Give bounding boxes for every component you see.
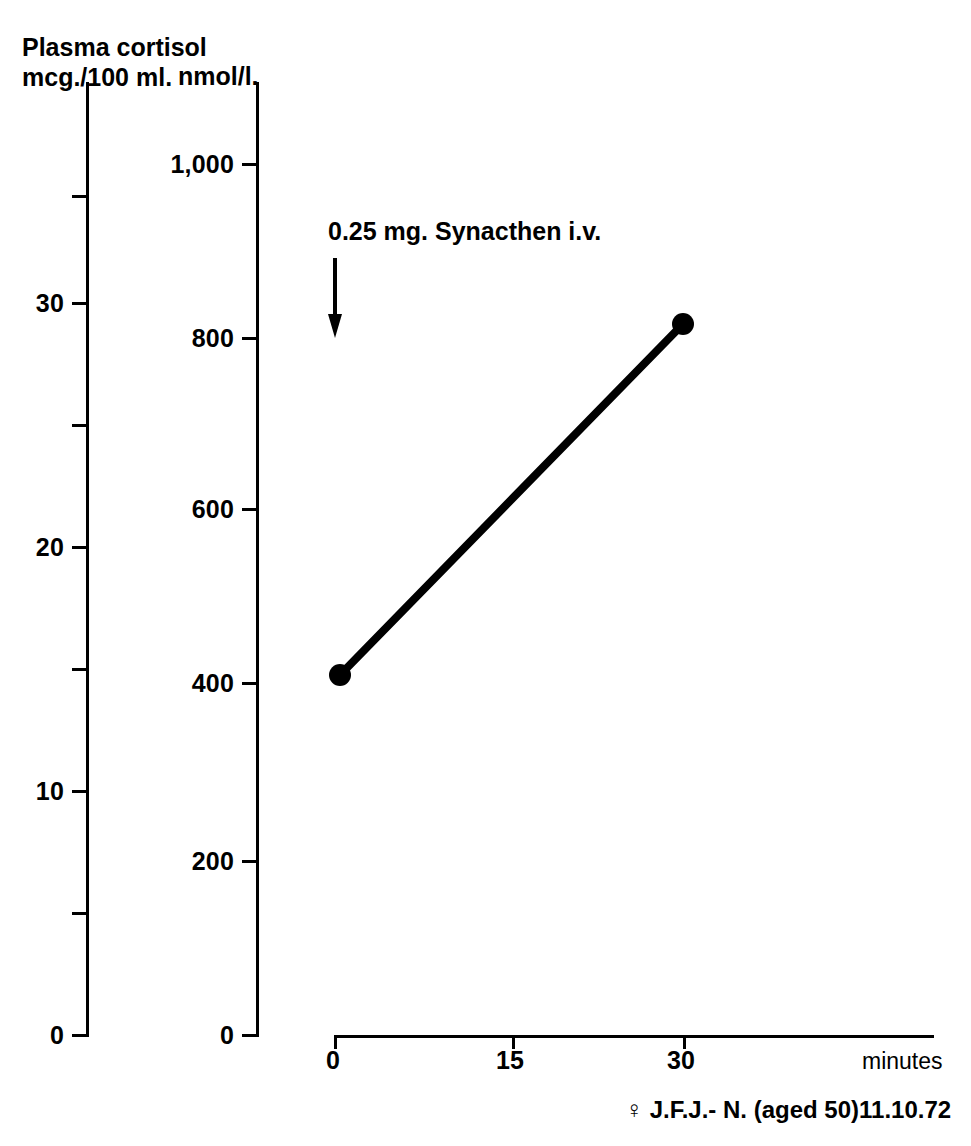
left-axis-spine (86, 82, 89, 1037)
nmol-axis-tick-label-800: 800 (152, 326, 234, 351)
dose-arrow-icon (326, 258, 344, 338)
dose-annotation-label: 0.25 mg. Synacthen i.v. (328, 219, 601, 244)
data-line-segment (340, 324, 683, 675)
data-point-marker (329, 664, 351, 686)
nmol-axis-tick-label-0: 0 (180, 1023, 234, 1048)
data-point-marker (672, 313, 694, 335)
left-axis-tick-5 (72, 912, 86, 915)
nmol-axis-tick-label-200: 200 (152, 849, 234, 874)
nmol-axis-tick-400 (242, 682, 256, 685)
x-axis-tick-label-15: 15 (496, 1048, 524, 1073)
patient-caption: ♀ J.F.J.- N. (aged 50)11.10.72 (625, 1098, 951, 1122)
left-axis-tick-20 (72, 546, 86, 549)
left-axis-tick-25 (72, 424, 86, 427)
x-axis-unit-label: minutes (862, 1050, 943, 1073)
nmol-axis-title: nmol/l. (178, 62, 259, 92)
nmol-axis-tick-1000 (242, 163, 256, 166)
left-axis-tick-label-0: 0 (20, 1023, 64, 1048)
nmol-axis-spine (256, 82, 259, 1037)
nmol-axis-tick-label-600: 600 (152, 497, 234, 522)
nmol-axis-tick-800 (242, 337, 256, 340)
left-axis-tick-label-30: 30 (20, 291, 64, 316)
left-axis-title-line1: Plasma cortisol (22, 33, 207, 63)
left-axis-tick-35 (72, 195, 86, 198)
left-axis-tick-10 (72, 790, 86, 793)
x-axis-spine (334, 1035, 934, 1038)
cortisol-synacthen-chart: Plasma cortisol mcg./100 ml. nmol/l. 0 1… (0, 0, 971, 1146)
nmol-axis-tick-0 (242, 1034, 256, 1037)
x-axis-tick-label-30: 30 (667, 1048, 695, 1073)
nmol-axis-tick-label-400: 400 (152, 671, 234, 696)
left-axis-tick-0 (72, 1034, 86, 1037)
left-axis-tick-15 (72, 668, 86, 671)
left-axis-tick-30 (72, 302, 86, 305)
nmol-axis-tick-200 (242, 860, 256, 863)
left-axis-tick-label-20: 20 (20, 535, 64, 560)
nmol-axis-tick-600 (242, 508, 256, 511)
left-axis-tick-label-10: 10 (20, 779, 64, 804)
x-axis-tick-label-0: 0 (326, 1048, 340, 1073)
nmol-axis-tick-label-1000: 1,000 (128, 152, 234, 177)
